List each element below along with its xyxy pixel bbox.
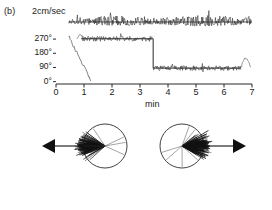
x-tick-label: 5 <box>190 88 202 97</box>
heading-tail-trace <box>241 58 251 68</box>
x-axis-title: min <box>145 100 160 109</box>
rose-vector-sparse <box>162 146 182 152</box>
x-tick-label: 3 <box>134 88 146 97</box>
heading-step-trace <box>81 39 241 68</box>
rose-vector-sparse <box>105 142 126 146</box>
y-axis-tick-marks <box>53 39 56 82</box>
x-tick-label: 7 <box>246 88 258 97</box>
rose-vector-sparse <box>166 146 182 160</box>
x-tick-label: 2 <box>106 88 118 97</box>
heading-ramp-trace <box>69 36 91 81</box>
figure-panel-b: (b) 2cm/sec 0° 90° 180° 270° 01234567 mi… <box>0 0 272 210</box>
x-tick-label: 4 <box>162 88 174 97</box>
rose-right-vectors <box>162 126 212 167</box>
rose-plot-right <box>160 124 246 168</box>
y-tick-label-90: 90° <box>16 62 52 71</box>
arrow-right-icon <box>233 139 246 153</box>
arrow-left-icon <box>42 139 55 153</box>
x-tick-label: 0 <box>50 88 62 97</box>
heading-noise-trace <box>81 34 241 72</box>
speed-noise-trace <box>69 11 252 26</box>
rose-vector-sparse <box>105 137 124 146</box>
figure-canvas <box>0 0 272 210</box>
heading-trace-group <box>69 34 251 81</box>
y-tick-label-270: 270° <box>16 34 52 43</box>
heading-axes-group <box>53 39 252 87</box>
panel-label: (b) <box>4 6 15 16</box>
rose-plot-left <box>42 124 127 168</box>
y-tick-label-0: 0° <box>16 77 52 86</box>
speed-trace-group <box>69 11 252 26</box>
scale-bar-label: 2cm/sec <box>32 6 66 16</box>
x-tick-label: 1 <box>78 88 90 97</box>
y-tick-label-180: 180° <box>16 48 52 57</box>
rose-vector-sparse <box>105 146 124 155</box>
rose-left-vectors <box>74 129 125 161</box>
x-tick-label: 6 <box>218 88 230 97</box>
